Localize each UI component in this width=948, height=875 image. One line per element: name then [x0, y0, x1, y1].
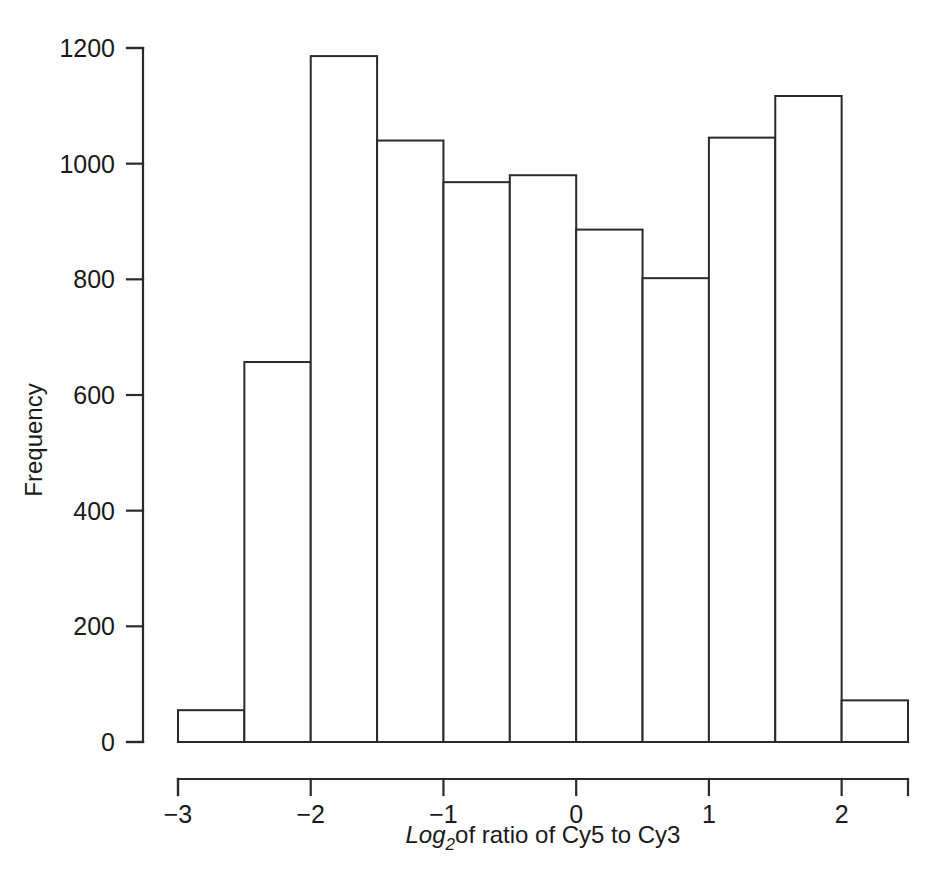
- y-axis-title: Frequency: [20, 383, 47, 496]
- y-tick-label: 0: [101, 728, 115, 756]
- y-tick-label: 800: [73, 265, 115, 293]
- histogram-bar: [775, 96, 841, 742]
- histogram-bar: [510, 175, 576, 742]
- plot-canvas: 020040060080010001200 −3−2−1012 Frequenc…: [0, 0, 948, 875]
- x-tick-label: 1: [702, 800, 716, 828]
- histogram-bar: [709, 138, 775, 742]
- y-tick-label: 200: [73, 612, 115, 640]
- x-axis-title-subscript: 2: [445, 835, 456, 854]
- histogram-bars: [178, 56, 908, 742]
- histogram-bar: [443, 182, 509, 742]
- x-tick-label: −2: [296, 800, 325, 828]
- x-tick-label: 2: [835, 800, 849, 828]
- y-tick-label: 1000: [59, 150, 115, 178]
- histogram-bar: [178, 710, 244, 742]
- x-axis-title-log: Log: [406, 821, 447, 848]
- y-axis-ticks: [127, 48, 143, 742]
- y-axis: 020040060080010001200: [59, 34, 143, 756]
- histogram-bar: [244, 362, 310, 742]
- histogram-bar: [643, 278, 709, 742]
- histogram-bar: [842, 700, 908, 742]
- histogram-bar: [576, 230, 642, 742]
- y-tick-label: 400: [73, 497, 115, 525]
- x-axis-ticks: [178, 779, 908, 795]
- y-tick-label: 1200: [59, 34, 115, 62]
- x-tick-label: −3: [164, 800, 193, 828]
- y-tick-label: 600: [73, 381, 115, 409]
- histogram-figure: 020040060080010001200 −3−2−1012 Frequenc…: [0, 0, 948, 875]
- y-axis-tick-labels: 020040060080010001200: [59, 34, 115, 756]
- histogram-bar: [311, 56, 377, 742]
- x-axis-title-rest: of ratio of Cy5 to Cy3: [455, 821, 680, 848]
- histogram-bar: [377, 141, 443, 742]
